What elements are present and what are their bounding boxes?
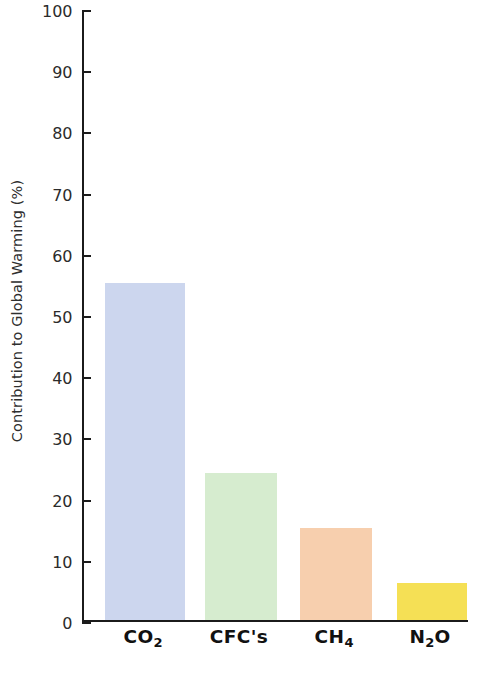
bar-co2	[105, 283, 185, 620]
plot-area: 0102030405060708090100	[82, 10, 468, 622]
y-axis-title: Contribution to Global Warming (%)	[0, 0, 34, 622]
y-axis-tick-label: 100	[42, 4, 73, 20]
y-axis-tick-label: 30	[52, 432, 72, 448]
y-axis-tick: 0	[82, 622, 91, 624]
y-axis-tick-label: 0	[62, 616, 72, 632]
y-axis-tick-label: 20	[52, 494, 72, 510]
x-axis-label-n2o: N2O	[395, 626, 465, 647]
bar-ch4	[300, 528, 372, 620]
y-axis-tick-label: 50	[52, 310, 72, 326]
y-axis-tick-label: 80	[52, 126, 72, 142]
y-axis-title-text: Contribution to Global Warming (%)	[9, 180, 25, 442]
bar-cfcs	[205, 473, 277, 620]
x-axis-category-labels: CO2CFC'sCH4N2O	[82, 626, 468, 666]
y-axis-tick-label: 60	[52, 249, 72, 265]
bars-layer	[84, 10, 468, 620]
y-axis-tick-label: 10	[52, 555, 72, 571]
y-axis-tick-label: 90	[52, 65, 72, 81]
x-axis-label-co2: CO2	[103, 626, 183, 647]
bar-chart: Contribution to Global Warming (%) 01020…	[0, 0, 477, 678]
y-axis-tick-label: 70	[52, 188, 72, 204]
y-axis-tick-label: 40	[52, 371, 72, 387]
bar-n2o	[397, 583, 467, 620]
x-axis-label-ch4: CH4	[298, 626, 370, 647]
x-axis-label-cfcs: CFC's	[203, 626, 275, 647]
